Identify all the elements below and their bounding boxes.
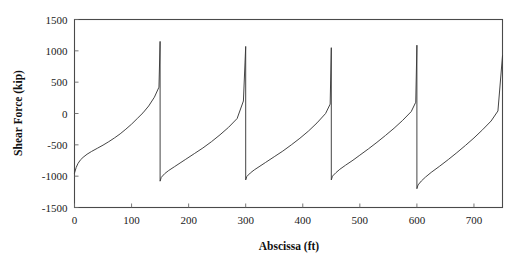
x-tick-label: 600 xyxy=(409,214,426,226)
y-axis-ticks xyxy=(75,20,79,208)
x-tick-label: 500 xyxy=(352,214,369,226)
x-axis-title: Abscissa (ft) xyxy=(259,240,320,253)
x-axis-tick-labels: 0100200300400500600700 xyxy=(72,214,483,226)
plot-frame xyxy=(75,20,503,208)
x-tick-label: 200 xyxy=(180,214,197,226)
y-tick-label: -1500 xyxy=(42,202,68,214)
y-tick-label: 1000 xyxy=(46,45,69,57)
y-axis-tick-labels: 150010005000-500-1000-1500 xyxy=(42,14,68,214)
chart-figure: 150010005000-500-1000-1500 0100200300400… xyxy=(0,0,523,277)
shear-force-line-chart: 150010005000-500-1000-1500 0100200300400… xyxy=(0,0,523,277)
x-tick-label: 700 xyxy=(466,214,483,226)
x-tick-label: 300 xyxy=(237,214,254,226)
y-axis-title: Shear Force (kip) xyxy=(12,70,25,156)
shear-force-series xyxy=(75,41,503,188)
y-tick-label: 0 xyxy=(62,108,68,120)
y-tick-label: -500 xyxy=(47,139,68,151)
x-tick-label: 100 xyxy=(123,214,140,226)
y-tick-label: 1500 xyxy=(46,14,69,26)
x-axis-ticks xyxy=(75,204,474,208)
y-tick-label: 500 xyxy=(51,76,68,88)
x-tick-label: 0 xyxy=(72,214,78,226)
x-tick-label: 400 xyxy=(295,214,312,226)
y-tick-label: -1000 xyxy=(42,170,68,182)
